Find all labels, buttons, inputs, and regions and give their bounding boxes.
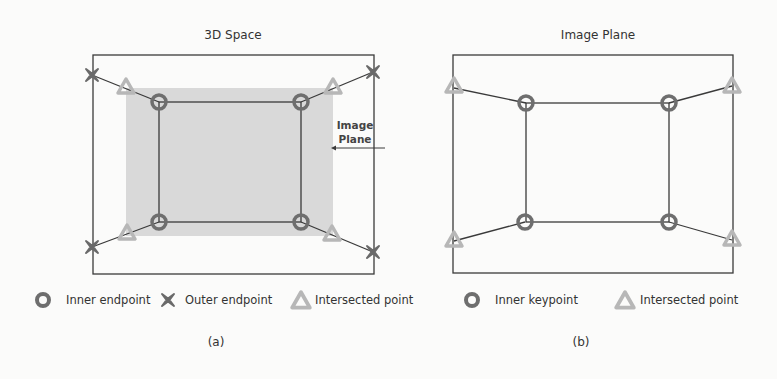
legend-label: Outer endpoint: [185, 293, 273, 307]
intersected-point-icon: [446, 232, 462, 246]
figure: 3D Space Image Plane: [0, 0, 777, 379]
intersected-point-icon: [724, 78, 740, 92]
outer-endpoint-icon: [367, 66, 379, 78]
legend-label: Intersected point: [315, 293, 414, 307]
legend-triangle-icon: [616, 292, 634, 307]
legend-x-icon: [162, 294, 174, 306]
legend-label: Intersected point: [640, 293, 739, 307]
panel-b-title: Image Plane: [561, 28, 635, 42]
inner-rectangle: [526, 103, 669, 222]
panel-b-caption: (b): [573, 335, 590, 349]
panel-a-legend: Inner endpoint Outer endpoint Intersecte…: [37, 292, 414, 307]
panel-a: 3D Space Image Plane: [37, 28, 414, 349]
legend-label: Inner keypoint: [495, 293, 578, 307]
legend-circle-icon: [466, 294, 478, 306]
intersected-point-icon: [724, 231, 740, 245]
image-plane-label-line1: Image: [337, 119, 374, 131]
arrow-left-icon: [331, 146, 385, 151]
connector-lines: [454, 86, 732, 241]
image-plane-label-line2: Plane: [339, 133, 372, 145]
panel-b-frame: [453, 55, 733, 273]
panel-a-caption: (a): [208, 335, 225, 349]
panel-a-title: 3D Space: [204, 28, 261, 42]
outer-endpoint-icon: [367, 246, 379, 258]
intersected-point-icon: [446, 78, 462, 92]
outer-endpoint-icon: [86, 241, 98, 253]
panel-b-legend: Inner keypoint Intersected point: [466, 292, 739, 307]
legend-label: Inner endpoint: [66, 293, 151, 307]
legend-circle-icon: [37, 294, 49, 306]
legend-triangle-icon: [292, 292, 310, 307]
panel-b: Image Plane Inner keypoint Intersected p…: [446, 28, 740, 349]
outer-endpoint-icon: [86, 69, 98, 81]
